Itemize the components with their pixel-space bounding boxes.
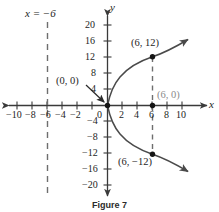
point-label-6-0: (6, 0) bbox=[157, 90, 180, 101]
point-origin bbox=[105, 103, 110, 108]
point-6-0 bbox=[150, 103, 155, 108]
ytick-label-neg4: −4 bbox=[87, 116, 98, 126]
xtick-label-4: 4 bbox=[134, 110, 139, 120]
y-axis-label: y bbox=[110, 2, 115, 13]
xtick-label-6: 6 bbox=[149, 110, 154, 120]
ytick-label-4: 4 bbox=[91, 84, 96, 94]
ytick-label-neg16: −16 bbox=[82, 164, 98, 174]
xtick-label-neg10: −10 bbox=[6, 110, 22, 120]
x-axis-label: x bbox=[209, 99, 214, 110]
ytick-label-16: 16 bbox=[85, 36, 95, 46]
ytick-label-neg20: −20 bbox=[82, 180, 98, 190]
xtick-label-zero: 0 bbox=[97, 110, 102, 120]
xtick-label-2: 2 bbox=[119, 110, 124, 120]
xtick-label-8: 8 bbox=[164, 110, 169, 120]
xtick-label-10: 10 bbox=[176, 110, 186, 120]
ytick-label-12: 12 bbox=[85, 52, 95, 62]
figure-container: y x −10 −8 −6 −4 −2 0 2 4 6 8 10 20 16 1… bbox=[0, 0, 219, 212]
ytick-label-neg12: −12 bbox=[82, 148, 98, 158]
ytick-label-neg8: −8 bbox=[87, 132, 98, 142]
point-6-12 bbox=[150, 54, 155, 59]
ytick-label-8: 8 bbox=[91, 68, 96, 78]
xtick-label-neg4: −4 bbox=[55, 110, 66, 120]
xtick-label-neg6: −6 bbox=[40, 110, 51, 120]
point-label-origin: (0, 0) bbox=[56, 76, 79, 87]
xtick-label-neg8: −8 bbox=[25, 110, 36, 120]
coordinate-plane-graphic bbox=[0, 0, 219, 212]
reference-line-label: x = −6 bbox=[25, 8, 56, 19]
figure-caption: Figure 7 bbox=[0, 201, 219, 210]
ytick-label-20: 20 bbox=[85, 20, 95, 30]
xtick-label-neg2: −2 bbox=[70, 110, 81, 120]
point-label-6-12: (6, 12) bbox=[131, 38, 159, 49]
point-label-6-neg12: (6, −12) bbox=[118, 157, 152, 168]
